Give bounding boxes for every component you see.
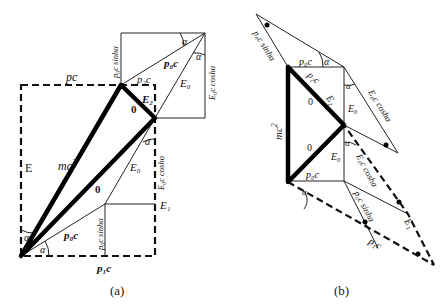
dot-top-left xyxy=(265,23,270,28)
label-alpha-bl1: α xyxy=(24,232,30,243)
dot-right xyxy=(384,143,389,148)
caption-a: (a) xyxy=(110,283,124,298)
label-E0-top-b: E₀ xyxy=(347,103,358,114)
label-E1: E₁ xyxy=(159,199,171,211)
label-p0c-sinh-bottom-b: p₀c sinhα xyxy=(352,188,377,223)
label-E: E xyxy=(25,161,32,175)
label-p1c-b: p₁c xyxy=(366,235,384,252)
label-zero-top: 0 xyxy=(131,103,137,115)
caption-b: (b) xyxy=(334,283,349,298)
panel-b: p₀c sinhα p₀c α p₂c E₂ 0 E₀ α E₀c coshα … xyxy=(251,14,434,298)
label-p0c-bottom: p₀c xyxy=(63,229,78,241)
alpha-arc-bl2 xyxy=(45,241,49,256)
label-p0c-sinh-bottom: p₀c sinhα xyxy=(95,218,105,251)
label-alpha-top1: α xyxy=(182,36,188,47)
label-alpha-bl-b: α xyxy=(302,187,307,197)
panel-a: pc E mc2 p₀c sinhα p₀c p₂c E₂ 0 α α E₀ E… xyxy=(21,33,217,298)
label-E1-b: E₁ xyxy=(402,215,417,230)
label-p0c-top-b: p₀c xyxy=(298,56,312,67)
label-E0-mid: E₀ xyxy=(129,161,141,173)
label-p2c-b: p₂c xyxy=(305,69,322,86)
label-alpha-right-b: α xyxy=(346,81,351,91)
label-alpha-mid-b: α xyxy=(345,138,350,148)
label-mc2-b: mc2 xyxy=(270,123,284,140)
label-zero-bottom-b: 0 xyxy=(307,142,312,153)
energy-momentum-diagram: pc E mc2 p₀c sinhα p₀c p₂c E₂ 0 α α E₀ E… xyxy=(0,0,447,306)
label-E0c-cosh-mid: E₀c coshα xyxy=(156,155,166,191)
E0-line-top xyxy=(155,33,205,118)
label-p0c-sinh-top: p₀c sinhα xyxy=(110,46,120,79)
label-pc: pc xyxy=(65,70,78,84)
label-alpha-top-b: α xyxy=(324,56,330,67)
label-p2c: p₂c xyxy=(136,74,151,85)
label-p0c-top: p₀c xyxy=(163,57,178,69)
label-alpha-top2: α xyxy=(196,51,202,62)
label-p1c: p₁c xyxy=(96,262,111,274)
label-E0-top: E₀ xyxy=(179,77,191,89)
vertex-dot-a xyxy=(119,83,123,87)
label-p0c-bottom-b: p₀c xyxy=(305,169,319,180)
label-alpha-mid: α xyxy=(145,136,151,147)
label-zero-mid: 0 xyxy=(95,183,101,195)
label-E2: E₂ xyxy=(141,93,153,105)
label-p0c-sinh-top-b: p₀c sinhα xyxy=(251,28,278,63)
p0c-line-top xyxy=(121,33,205,85)
label-E0-bottom-b: E₀ xyxy=(330,151,341,162)
label-E0c-cosh-top: E₀c coshα xyxy=(207,65,217,101)
label-E0c-cosh-top-b: E₀c coshα xyxy=(366,87,394,124)
label-alpha-bl2: α xyxy=(40,244,46,255)
label-zero-top-b: 0 xyxy=(308,96,313,107)
